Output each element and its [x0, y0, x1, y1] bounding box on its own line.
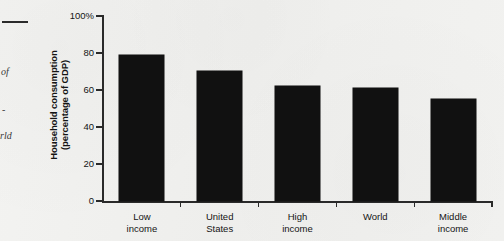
y-axis-title-line2: (percentage of GDP)	[59, 60, 71, 150]
y-axis-tick-label-100: 100%	[58, 10, 94, 21]
x-axis-label-line1: World	[336, 211, 414, 223]
y-axis-tick-label-40: 40	[58, 121, 94, 132]
y-axis-tick-40	[96, 126, 102, 127]
x-axis-label-middle-income: Middleincome	[414, 211, 492, 234]
x-axis-label-line2: income	[414, 223, 492, 235]
x-axis-label-low-income: Lowincome	[103, 211, 181, 234]
x-axis-tick-5	[491, 201, 492, 207]
y-axis-tick-label-60: 60	[58, 84, 94, 95]
x-axis-label-high-income: Highincome	[259, 211, 337, 234]
x-axis-label-line1: Low	[103, 211, 181, 223]
scanned-page: of - rld Household consumption (percenta…	[0, 0, 504, 241]
y-axis-tick-20	[96, 163, 102, 164]
x-axis-tick-1	[180, 201, 181, 207]
x-axis-line	[102, 201, 492, 203]
y-axis-tick-label-0: 0	[58, 195, 94, 206]
x-axis-tick-2	[258, 201, 259, 207]
x-axis-tick-4	[414, 201, 415, 207]
bar-high-income	[275, 86, 320, 201]
y-axis-tick-80	[96, 52, 102, 53]
y-axis-tick-100	[96, 15, 102, 16]
x-axis-label-united-states: UnitedStates	[181, 211, 259, 234]
y-axis-title: Household consumption (percentage of GDP…	[44, 10, 74, 200]
bar-middle-income	[431, 99, 476, 201]
bar-united-states	[197, 71, 242, 201]
x-axis-label-line1: Middle	[414, 211, 492, 223]
x-axis-label-line1: High	[259, 211, 337, 223]
bar-world	[353, 88, 398, 201]
y-axis-tick-label-20: 20	[58, 158, 94, 169]
x-axis-label-line1: United	[181, 211, 259, 223]
plot-area	[103, 16, 492, 201]
y-axis-tick-label-80: 80	[58, 47, 94, 58]
x-axis-tick-3	[336, 201, 337, 207]
x-axis-label-line2: income	[259, 223, 337, 235]
x-axis-label-line2: income	[103, 223, 181, 235]
x-axis-label-world: World	[336, 211, 414, 223]
x-axis-label-line2: States	[181, 223, 259, 235]
bar-low-income	[119, 55, 164, 201]
y-axis-tick-60	[96, 89, 102, 90]
y-axis-title-line1: Household consumption	[48, 50, 60, 159]
y-axis-tick-0	[96, 200, 102, 201]
bar-chart: Household consumption (percentage of GDP…	[0, 0, 504, 241]
